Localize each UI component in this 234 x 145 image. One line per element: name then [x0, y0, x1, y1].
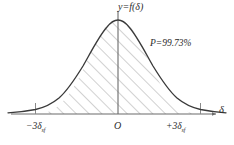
tick-label-plus-3-sigma: +3δsf [166, 122, 186, 134]
tick-label-minus-3-sigma: −3δsf [26, 122, 46, 134]
tick-label-plus-3-sigma-value: +3δ [166, 121, 182, 131]
tick-label-plus-3-sigma-subscript: sf [182, 127, 186, 133]
probability-label: P=99.73% [150, 39, 192, 49]
x-axis-label: δ [219, 105, 224, 116]
tick-label-minus-3-sigma-subscript: sf [42, 127, 46, 133]
origin-label: O [114, 121, 121, 131]
normal-distribution-figure: y=f(δ) P=99.73% O δ −3δsf +3δsf [0, 0, 234, 145]
curve-equation-label: y=f(δ) [118, 2, 143, 12]
tick-label-minus-3-sigma-value: −3δ [26, 121, 42, 131]
